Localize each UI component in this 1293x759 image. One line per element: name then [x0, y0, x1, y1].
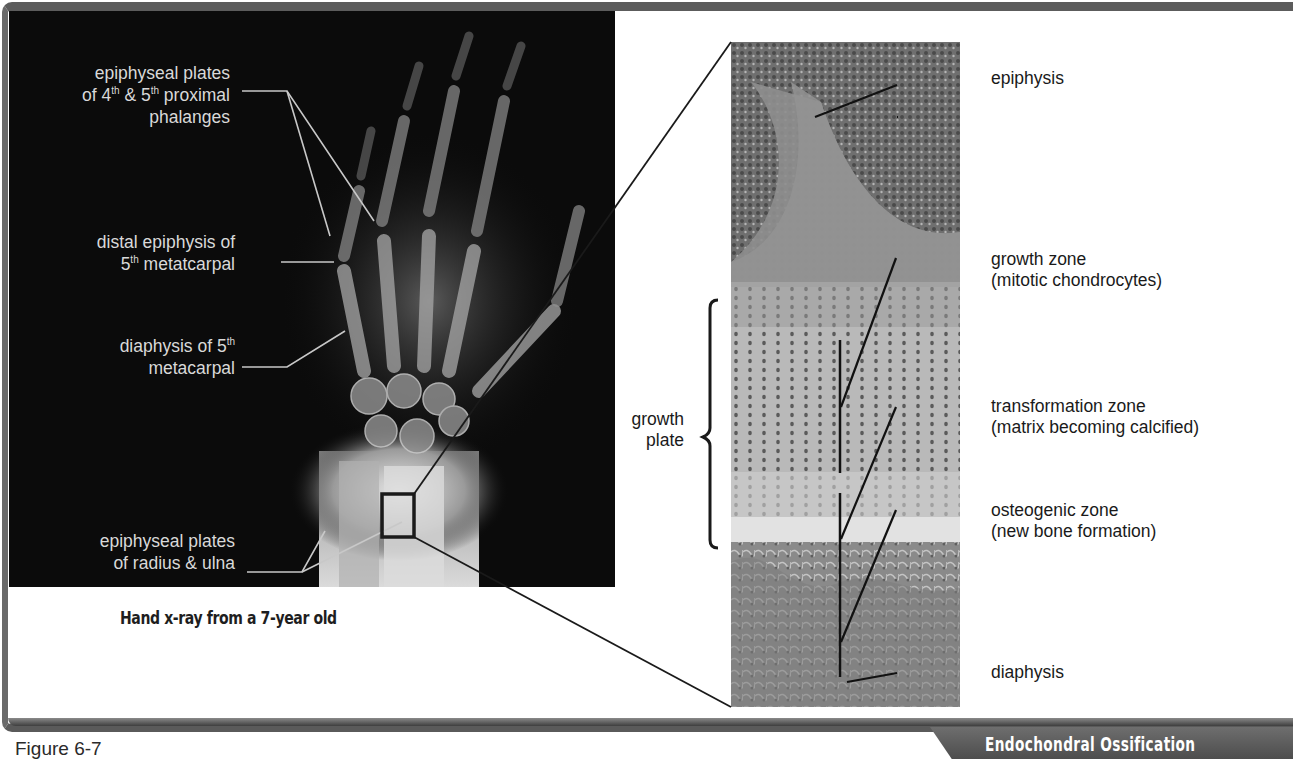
label-osteogenic-zone: osteogenic zone (new bone formation) [991, 500, 1156, 542]
label-line: distal epiphysis of [9, 231, 235, 253]
label-line: 5th metatcarpal [9, 253, 235, 275]
label-line: metacarpal [9, 357, 235, 379]
label-line: of radius & ulna [9, 552, 235, 574]
label-line: (new bone formation) [991, 521, 1156, 542]
label-line: transformation zone [991, 396, 1199, 417]
hand-xray-image: epiphyseal plates of 4th & 5th proximal … [9, 11, 615, 587]
label-line: growth [620, 409, 684, 430]
label-line: diaphysis of 5th [9, 335, 235, 357]
label-line: of 4th & 5th proximal [9, 84, 230, 106]
xray-caption: Hand x-ray from a 7-year old [120, 607, 377, 628]
label-radius-ulna-plates: epiphyseal plates of radius & ulna [9, 530, 235, 574]
title-badge: Endochondral Ossification [985, 733, 1201, 755]
label-line: phalanges [9, 106, 230, 128]
label-transformation-zone: transformation zone (matrix becoming cal… [991, 396, 1199, 438]
label-line: growth zone [991, 249, 1162, 270]
label-epiphysis: epiphysis [991, 68, 1064, 89]
label-line: plate [620, 430, 684, 451]
label-distal-epiphysis: distal epiphysis of 5th metatcarpal [9, 231, 235, 275]
frame-bottom-border [8, 718, 1293, 726]
label-diaphysis-metacarpal: diaphysis of 5th metacarpal [9, 335, 235, 379]
growth-plate-histology-illustration [731, 42, 960, 707]
histology-micrograph [731, 42, 960, 707]
label-phalanges-epiphyseal-plates: epiphyseal plates of 4th & 5th proximal … [9, 62, 230, 128]
label-line: osteogenic zone [991, 500, 1156, 521]
label-line: (mitotic chondrocytes) [991, 270, 1162, 291]
label-growth-zone: growth zone (mitotic chondrocytes) [991, 249, 1162, 291]
label-line: epiphyseal plates [9, 62, 230, 84]
figure-number: Figure 6-7 [15, 738, 102, 759]
label-diaphysis: diaphysis [991, 662, 1064, 683]
label-line: epiphyseal plates [9, 530, 235, 552]
label-line: (matrix becoming calcified) [991, 417, 1199, 438]
growth-plate-label: growth plate [620, 409, 684, 451]
